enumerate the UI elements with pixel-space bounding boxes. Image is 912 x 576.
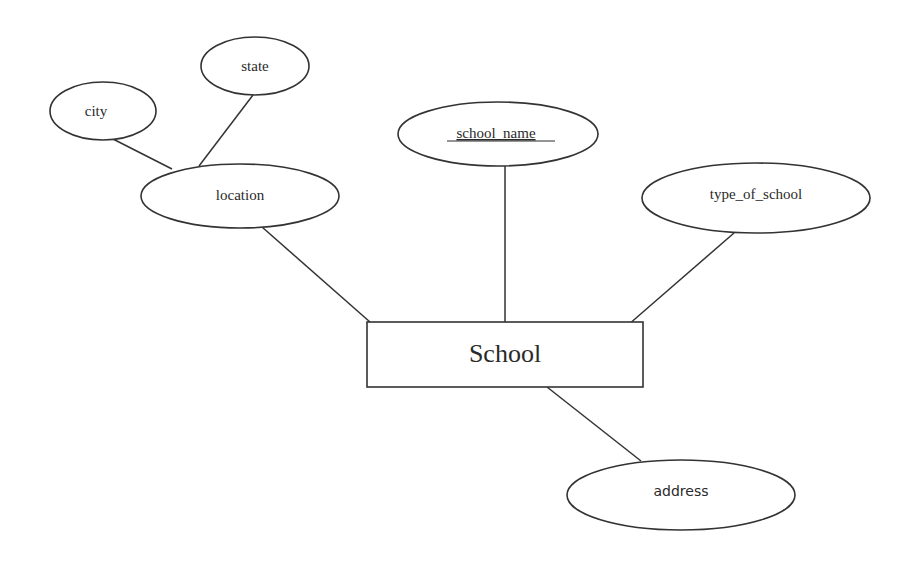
attribute-address: address	[567, 460, 795, 530]
edge-school-address	[547, 387, 641, 461]
edge-city-location	[113, 139, 172, 169]
key-attribute-label: school_name	[456, 125, 535, 141]
entity-label: School	[469, 339, 541, 368]
attribute-city: city	[50, 82, 156, 140]
attribute-label: city	[85, 103, 108, 119]
attribute-label: location	[216, 187, 265, 203]
attribute-state: state	[201, 37, 309, 95]
edge-type-of-school-school	[628, 233, 734, 325]
attribute-school-name-key: school_name	[398, 102, 598, 166]
er-diagram: state city location school_name type_of_…	[0, 0, 912, 576]
edge-location-school	[262, 227, 370, 322]
attribute-type-of-school: type_of_school	[642, 163, 870, 233]
attribute-location: location	[141, 164, 339, 228]
edge-state-location	[199, 95, 253, 166]
attribute-label: type_of_school	[710, 186, 802, 202]
attribute-label: address	[653, 483, 708, 499]
entity-school: School	[367, 322, 643, 387]
attribute-label: state	[241, 58, 269, 74]
